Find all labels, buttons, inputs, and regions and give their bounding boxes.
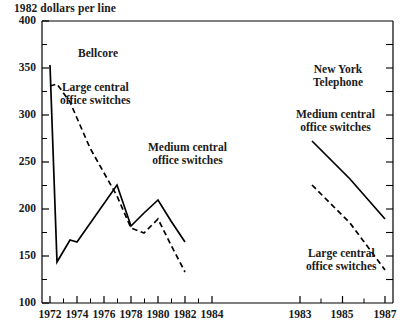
series-bellcore-large-dashed (50, 84, 185, 272)
x-tick-label-1985: 1985 (322, 308, 362, 320)
x-tick-label-1983: 1983 (280, 308, 320, 320)
y-tick-label-100: 100 (6, 296, 36, 308)
annotation-bellcore: Bellcore (78, 47, 118, 60)
y-tick-label-350: 350 (6, 61, 36, 73)
y-tick-label-150: 150 (6, 249, 36, 261)
annotation-bellcore-medium-switches: Medium central office switches (148, 141, 227, 167)
chart-container: 1982 dollars per line (0, 0, 420, 330)
y-tick-label-250: 250 (6, 155, 36, 167)
x-tick-label-1987: 1987 (365, 308, 405, 320)
annotation-nytel-large-switches: Large central office switches (306, 247, 377, 273)
x-axis-ticks-left (50, 296, 212, 303)
annotation-new-york-telephone: New York Telephone (313, 63, 363, 89)
series-nytel-medium-solid (312, 141, 385, 219)
y-axis-major-ticks (42, 21, 49, 303)
x-tick-label-1984: 1984 (192, 308, 232, 320)
x-axis-ticks-right (300, 296, 385, 303)
annotation-bellcore-large-switches: Large central office switches (60, 81, 131, 107)
right-axis-ticks (386, 45, 393, 280)
y-tick-label-400: 400 (6, 14, 36, 26)
annotation-nytel-medium-switches: Medium central office switches (296, 108, 375, 134)
y-tick-label-200: 200 (6, 202, 36, 214)
y-tick-label-300: 300 (6, 108, 36, 120)
